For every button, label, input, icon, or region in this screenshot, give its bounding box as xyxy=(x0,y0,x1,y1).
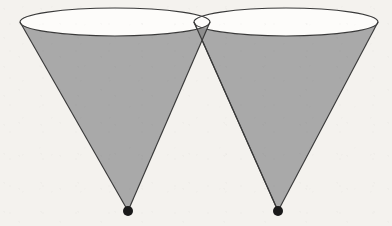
left-apex-dot xyxy=(123,206,133,216)
figure-root xyxy=(0,0,392,226)
cone-diagram-svg xyxy=(0,0,392,226)
right-apex-dot xyxy=(273,206,283,216)
